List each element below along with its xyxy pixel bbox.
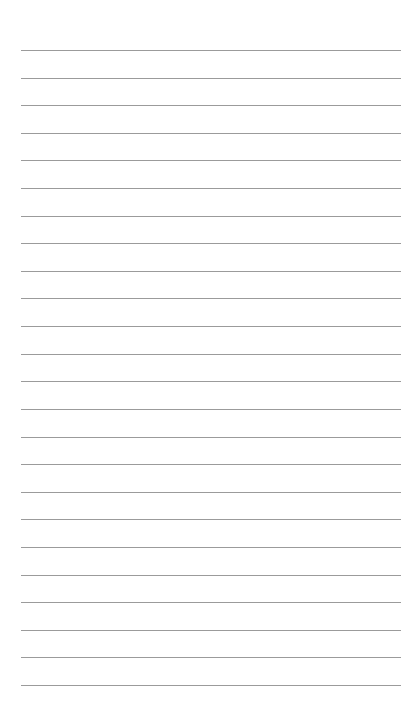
ruled-line (21, 575, 401, 576)
ruled-line (21, 685, 401, 686)
lined-paper-page (0, 0, 420, 723)
ruled-line (21, 243, 401, 244)
ruled-line (21, 464, 401, 465)
ruled-line (21, 602, 401, 603)
ruled-line (21, 298, 401, 299)
ruled-line (21, 492, 401, 493)
ruled-line (21, 78, 401, 79)
ruled-line (21, 354, 401, 355)
ruled-line (21, 216, 401, 217)
ruled-line (21, 188, 401, 189)
ruled-line (21, 657, 401, 658)
ruled-line (21, 133, 401, 134)
ruled-line (21, 105, 401, 106)
ruled-line (21, 409, 401, 410)
ruled-line (21, 381, 401, 382)
ruled-line (21, 271, 401, 272)
ruled-line (21, 547, 401, 548)
ruled-line (21, 519, 401, 520)
ruled-line (21, 630, 401, 631)
ruled-line (21, 326, 401, 327)
ruled-line (21, 160, 401, 161)
ruled-line (21, 437, 401, 438)
ruled-line (21, 50, 401, 51)
